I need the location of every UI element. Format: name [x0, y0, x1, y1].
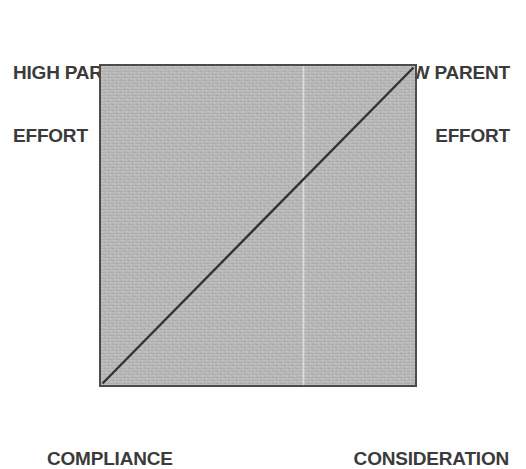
diagonal-line	[101, 66, 415, 385]
label-compliance-text: COMPLIANCE	[47, 448, 173, 469]
label-compliance: COMPLIANCE	[47, 406, 173, 469]
plot-square	[99, 64, 417, 387]
label-consideration: CONSIDERATION	[354, 406, 509, 469]
label-consideration-text: CONSIDERATION	[354, 448, 509, 469]
scan-grain-texture	[101, 66, 415, 385]
scan-fold-streak	[302, 66, 305, 385]
